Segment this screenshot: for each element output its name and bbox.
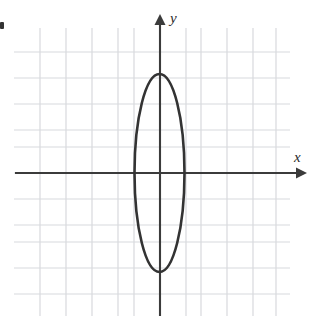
- coordinate-plane-svg: [0, 0, 313, 321]
- y-axis-label: y: [170, 11, 177, 26]
- graph-figure: y x: [0, 0, 313, 321]
- x-axis-arrowhead: [296, 168, 307, 179]
- x-axis-label: x: [294, 150, 301, 165]
- y-axis-arrowhead: [155, 14, 166, 25]
